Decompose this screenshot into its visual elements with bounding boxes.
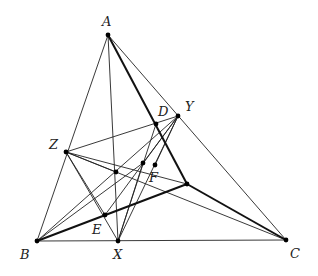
point-f bbox=[153, 163, 158, 168]
thick-lines bbox=[37, 35, 286, 241]
point-r bbox=[141, 161, 146, 166]
segment-z-q bbox=[66, 152, 116, 172]
point-d bbox=[154, 122, 159, 127]
point-y bbox=[176, 114, 181, 119]
point-a bbox=[106, 33, 111, 38]
point-x bbox=[116, 239, 121, 244]
label-z: Z bbox=[48, 137, 59, 152]
segment-y-f bbox=[155, 116, 178, 165]
segment-a-p bbox=[108, 35, 187, 184]
point-p bbox=[185, 182, 190, 187]
segment-z-f bbox=[66, 152, 187, 184]
point-q bbox=[114, 170, 119, 175]
point-z bbox=[64, 150, 69, 155]
segment-b-p bbox=[37, 184, 187, 241]
label-f: F bbox=[148, 170, 159, 185]
geometry-diagram: A B C X Y Z D E F bbox=[0, 0, 318, 276]
label-y: Y bbox=[185, 99, 195, 114]
point-b bbox=[35, 239, 40, 244]
label-x: X bbox=[112, 247, 123, 262]
segment-b-c bbox=[37, 240, 286, 241]
label-a: A bbox=[101, 14, 111, 29]
segment-p-c bbox=[187, 184, 286, 240]
point-e bbox=[103, 213, 108, 218]
segment-a-c bbox=[108, 35, 286, 240]
label-b: B bbox=[19, 247, 30, 262]
label-e: E bbox=[91, 222, 102, 237]
label-c: C bbox=[290, 246, 300, 261]
point-c bbox=[284, 238, 289, 243]
segment-b-r bbox=[37, 163, 143, 241]
label-d: D bbox=[157, 104, 169, 119]
